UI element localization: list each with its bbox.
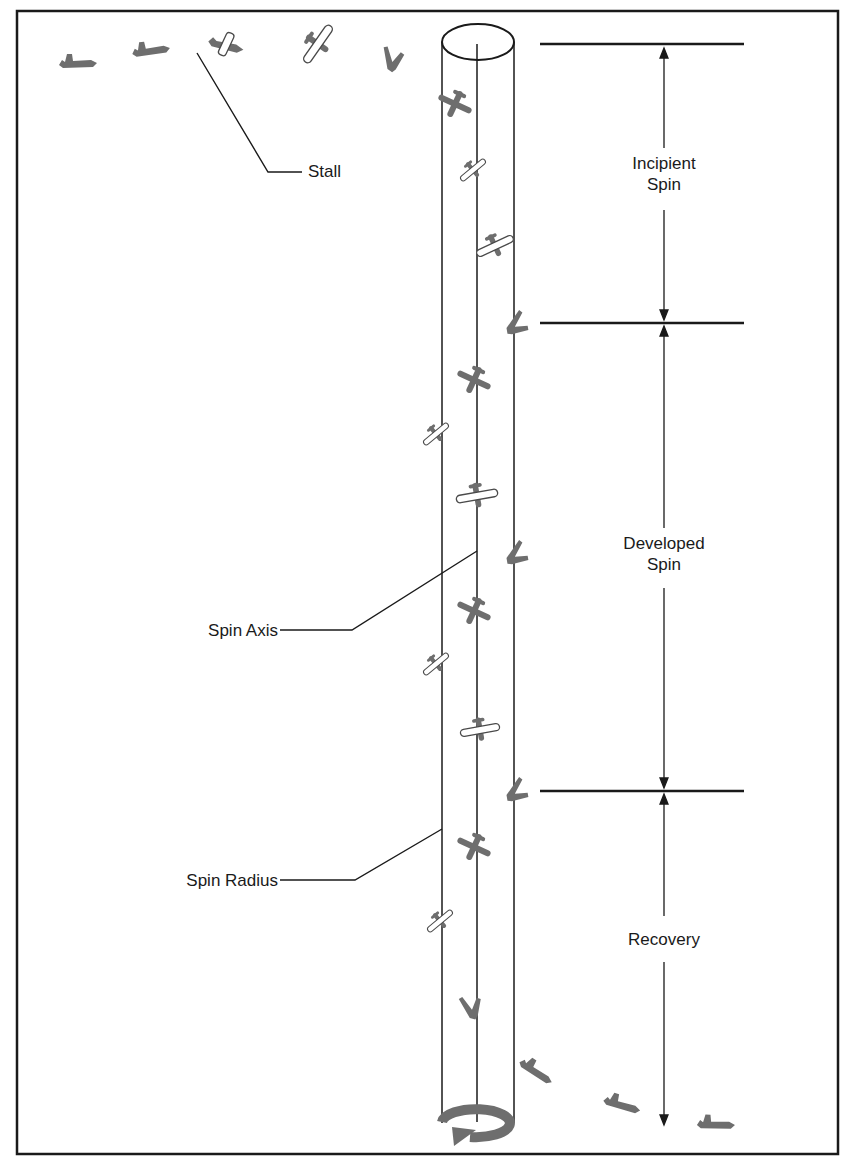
rotation-arrow-icon (442, 1109, 510, 1146)
recovery-aircraft (518, 1053, 736, 1130)
spin-axis-label: Spin Axis (208, 620, 278, 641)
incipient-spin-line2: Spin (632, 174, 695, 195)
developed-spin-line1: Developed (623, 533, 704, 554)
recovery-label: Recovery (628, 929, 700, 950)
phase-arrows (660, 48, 668, 1125)
stall-sequence-aircraft (59, 18, 407, 73)
stall-label: Stall (308, 161, 341, 182)
incipient-spin-label: Incipient Spin (632, 153, 695, 195)
developed-spin-line2: Spin (623, 554, 704, 575)
spin-cylinder (442, 24, 514, 1123)
incipient-spin-line1: Incipient (632, 153, 695, 174)
spin-diagram (0, 0, 856, 1165)
developed-spin-label: Developed Spin (623, 533, 704, 575)
spin-radius-label: Spin Radius (186, 870, 278, 891)
